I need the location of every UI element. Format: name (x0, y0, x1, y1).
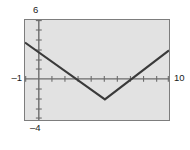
window-xmin-label: –1 (2, 73, 22, 83)
calculator-screenshot: 6 –1 10 –4 (0, 0, 190, 150)
window-ymax-label: 6 (33, 5, 38, 15)
window-ymin-label: –4 (30, 123, 41, 133)
window-xmax-label: 10 (174, 73, 185, 83)
calculator-viewport (24, 19, 170, 121)
graph-plot (25, 20, 169, 120)
curve-absolute-value (25, 43, 169, 100)
